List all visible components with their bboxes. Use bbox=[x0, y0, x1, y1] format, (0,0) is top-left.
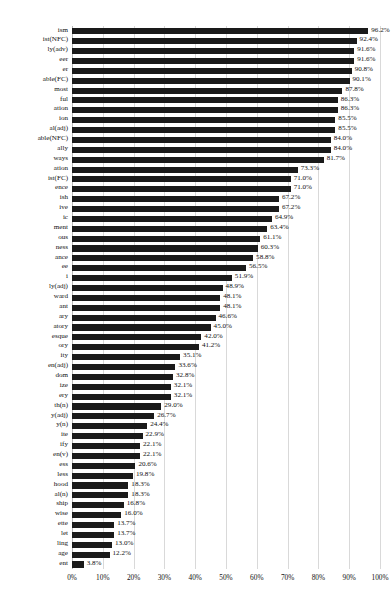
bar-row: ness60.3% bbox=[72, 243, 380, 253]
bar-row: ite22.9% bbox=[72, 431, 380, 441]
bar bbox=[72, 423, 147, 429]
bar bbox=[72, 186, 291, 192]
bar-value-label: 3.8% bbox=[84, 558, 102, 569]
x-tick-label: 20% bbox=[127, 573, 140, 582]
bar-row: ation86.3% bbox=[72, 105, 380, 115]
bar-row: ation73.3% bbox=[72, 164, 380, 174]
bar bbox=[72, 265, 246, 271]
bar bbox=[72, 561, 84, 567]
bar bbox=[72, 532, 114, 538]
bar-row: hood18.3% bbox=[72, 480, 380, 490]
bar bbox=[72, 245, 258, 251]
bar bbox=[72, 413, 154, 419]
bar-row: ee56.5% bbox=[72, 263, 380, 273]
bar-chart: ism96.2%ist(NFC)92.4%ly(adv)91.6%eer91.6… bbox=[0, 0, 391, 616]
bar-row: ize32.1% bbox=[72, 381, 380, 391]
category-label: ent bbox=[59, 558, 68, 569]
bar-row: th(n)29.0% bbox=[72, 401, 380, 411]
bar-row: y(n)24.4% bbox=[72, 421, 380, 431]
x-tick-label: 30% bbox=[158, 573, 171, 582]
bar-row: dom32.8% bbox=[72, 372, 380, 382]
bar bbox=[72, 453, 140, 459]
bar bbox=[72, 157, 324, 163]
bar-row: ship16.8% bbox=[72, 500, 380, 510]
bar bbox=[72, 275, 232, 281]
gridline-100pct bbox=[380, 26, 381, 569]
bar bbox=[72, 542, 112, 548]
bar-row: ist(NFC)92.4% bbox=[72, 36, 380, 46]
x-tick-label: 10% bbox=[96, 573, 109, 582]
bar-row: ery32.1% bbox=[72, 391, 380, 401]
bar-value-label: 81.7% bbox=[324, 153, 345, 164]
bar-row: al(n)18.3% bbox=[72, 490, 380, 500]
bar bbox=[72, 315, 216, 321]
bar-row: ify22.1% bbox=[72, 441, 380, 451]
bar-row: ish67.2% bbox=[72, 194, 380, 204]
bar-row: less19.8% bbox=[72, 470, 380, 480]
bar-row: atory45.0% bbox=[72, 322, 380, 332]
bar bbox=[72, 147, 331, 153]
x-tick-label: 50% bbox=[219, 573, 232, 582]
bar bbox=[72, 482, 128, 488]
plot-area: ism96.2%ist(NFC)92.4%ly(adv)91.6%eer91.6… bbox=[72, 26, 380, 569]
bar bbox=[72, 354, 180, 360]
bar bbox=[72, 374, 173, 380]
bar-row: ist(FC)71.0% bbox=[72, 174, 380, 184]
bar-row: ess20.6% bbox=[72, 460, 380, 470]
bar-row: en(v)22.1% bbox=[72, 451, 380, 461]
bar-value-label: 41.2% bbox=[199, 340, 220, 351]
bar bbox=[72, 88, 342, 94]
bar bbox=[72, 58, 354, 64]
bar bbox=[72, 117, 335, 123]
bar-row: ly(adv)91.6% bbox=[72, 46, 380, 56]
bar-row: ism96.2% bbox=[72, 26, 380, 36]
bar-row: ful86.3% bbox=[72, 95, 380, 105]
bar bbox=[72, 502, 124, 508]
bar bbox=[72, 28, 368, 34]
bar-row: able(FC)90.1% bbox=[72, 75, 380, 85]
bar-row: ence71.0% bbox=[72, 184, 380, 194]
bar bbox=[72, 473, 133, 479]
bar bbox=[72, 295, 220, 301]
bar-row: ways81.7% bbox=[72, 154, 380, 164]
bar bbox=[72, 97, 338, 103]
x-tick-label: 60% bbox=[250, 573, 263, 582]
bar-row: ity35.1% bbox=[72, 352, 380, 362]
bar bbox=[72, 394, 171, 400]
x-tick-label: 80% bbox=[312, 573, 325, 582]
bar-row: most87.8% bbox=[72, 85, 380, 95]
x-tick-label: 70% bbox=[281, 573, 294, 582]
bar-row: ion85.5% bbox=[72, 115, 380, 125]
bar bbox=[72, 216, 272, 222]
x-axis: 0%10%20%30%40%50%60%70%80%90%100% bbox=[72, 569, 380, 589]
bar-row: er90.8% bbox=[72, 65, 380, 75]
bar-row: ent3.8% bbox=[72, 559, 380, 569]
bar-row: ous61.1% bbox=[72, 233, 380, 243]
bar bbox=[72, 433, 143, 439]
bar bbox=[72, 167, 298, 173]
bar bbox=[72, 443, 140, 449]
bar bbox=[72, 324, 211, 330]
bar bbox=[72, 68, 352, 74]
bar bbox=[72, 285, 223, 291]
bar bbox=[72, 236, 260, 242]
bar bbox=[72, 403, 161, 409]
bar-row: ance58.8% bbox=[72, 253, 380, 263]
bar bbox=[72, 384, 171, 390]
bar bbox=[72, 463, 135, 469]
bar-rows: ism96.2%ist(NFC)92.4%ly(adv)91.6%eer91.6… bbox=[72, 26, 380, 569]
bar-value-label: 12.2% bbox=[110, 548, 131, 559]
bar-row: ive67.2% bbox=[72, 204, 380, 214]
x-tick-label: 90% bbox=[342, 573, 355, 582]
bar bbox=[72, 522, 114, 528]
bar bbox=[72, 107, 338, 113]
bar-row: age12.2% bbox=[72, 549, 380, 559]
x-tick-label: 40% bbox=[188, 573, 201, 582]
bar bbox=[72, 364, 175, 370]
bar bbox=[72, 196, 279, 202]
bar bbox=[72, 305, 220, 311]
bar-row: ic64.9% bbox=[72, 214, 380, 224]
bar bbox=[72, 206, 279, 212]
bar-row: ory41.2% bbox=[72, 342, 380, 352]
bar bbox=[72, 176, 291, 182]
